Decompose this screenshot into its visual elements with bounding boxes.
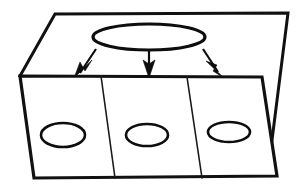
- diagram-canvas: [0, 0, 300, 192]
- target-ellipse-left: [41, 123, 85, 147]
- source-ellipse: [93, 24, 205, 50]
- target-ellipse-right: [208, 122, 250, 142]
- diagram-svg: [0, 0, 300, 192]
- target-ellipse-middle: [126, 124, 168, 146]
